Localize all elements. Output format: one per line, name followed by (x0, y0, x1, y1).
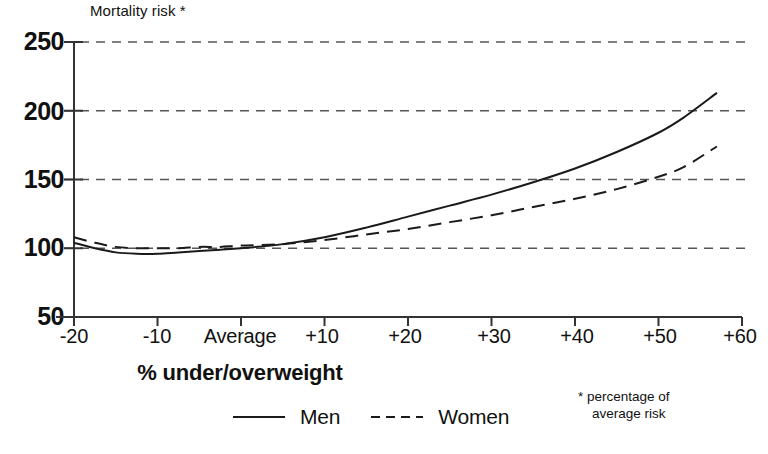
data-series (74, 93, 717, 254)
legend: Men Women (232, 405, 509, 429)
plot-area (0, 0, 768, 454)
footnote: * percentage of average risk (578, 388, 758, 423)
footnote-line-2: average risk (578, 405, 758, 422)
axis-lines (56, 42, 742, 326)
legend-item-women[interactable]: Women (370, 405, 509, 429)
legend-swatch-solid-line (232, 412, 286, 422)
legend-swatch-dashed-line (370, 412, 424, 422)
legend-item-men[interactable]: Men (232, 405, 340, 429)
legend-label-women: Women (438, 405, 509, 429)
footnote-line-1: * percentage of (578, 389, 670, 404)
tick-marks (64, 42, 742, 326)
x-axis-title: % under/overweight (137, 360, 342, 386)
series-line-women (74, 147, 717, 249)
mortality-risk-chart: Mortality risk * 250 200 150 100 50 -20 … (0, 0, 768, 454)
legend-label-men: Men (300, 405, 340, 429)
